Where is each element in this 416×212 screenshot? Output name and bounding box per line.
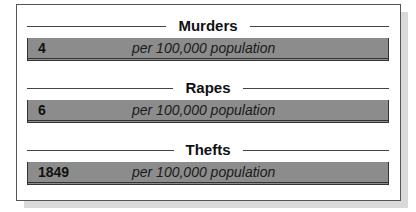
stat-unit: per 100,000 population [132,100,275,120]
stat-murders: Murders 4 per 100,000 population [27,16,389,61]
stat-value: 4 [38,38,46,58]
stat-value: 6 [38,100,46,120]
stat-value: 1849 [38,162,69,182]
crime-stats-panel: Murders 4 per 100,000 population Rapes 6… [16,4,401,201]
stat-heading: Thefts [27,140,389,160]
stat-title: Murders [166,16,249,36]
stat-heading: Murders [27,16,389,36]
stat-title: Thefts [174,140,243,160]
stat-bar: 6 per 100,000 population [27,100,389,123]
stat-unit: per 100,000 population [132,162,275,182]
stat-thefts: Thefts 1849 per 100,000 population [27,140,389,185]
stat-title: Rapes [173,78,242,98]
stat-bar: 1849 per 100,000 population [27,162,389,185]
stat-bar: 4 per 100,000 population [27,38,389,61]
stat-heading: Rapes [27,78,389,98]
stat-unit: per 100,000 population [132,38,275,58]
stat-rapes: Rapes 6 per 100,000 population [27,78,389,123]
